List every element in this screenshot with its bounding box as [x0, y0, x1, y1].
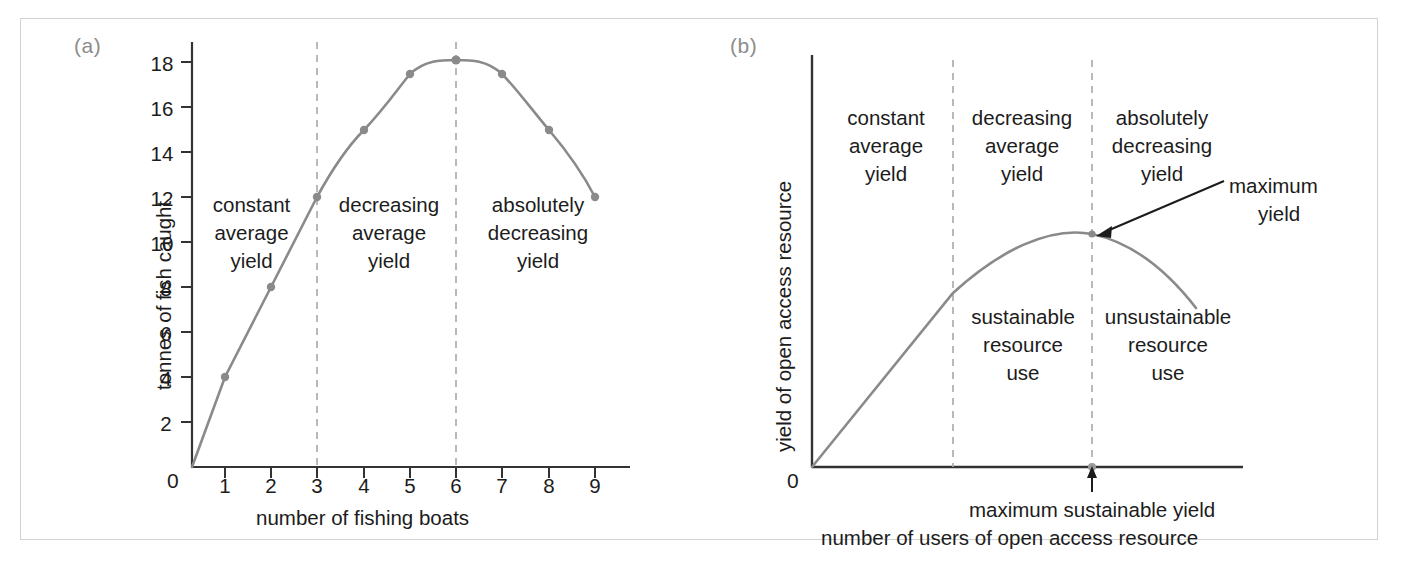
panel-b-zone-unsustainable-line2: resource: [1128, 333, 1208, 356]
panel-a-zone-constant-line3: yield: [230, 249, 272, 272]
panel-a-zone-absolutely: absolutely decreasing yield: [476, 191, 600, 275]
panel-a-ytick-6: 6: [150, 322, 182, 346]
panel-a-origin-label: 0: [167, 469, 179, 493]
panel-a-zone-decreasing-line2: average: [352, 221, 426, 244]
panel-a-zone-decreasing-line1: decreasing: [339, 193, 439, 216]
panel-a-ytick-14: 14: [142, 142, 182, 166]
panel-b-zone-unsustainable-line3: use: [1151, 361, 1184, 384]
panel-b-y-axis-title: yield of open access resource: [772, 181, 796, 452]
panel-a-zone-absolutely-line2: decreasing: [488, 221, 588, 244]
panel-b-tag: (b): [730, 34, 757, 58]
panel-b-maximum-yield-line2: yield: [1229, 200, 1300, 228]
panel-b-zone-absolutely-line3: yield: [1141, 162, 1183, 185]
panel-b-zone-absolutely: absolutely decreasing yield: [1098, 104, 1226, 188]
panel-b-zone-unsustainable-line1: unsustainable: [1105, 305, 1232, 328]
panel-a-xtick-2: 2: [257, 474, 285, 498]
panel-a-xtick-7: 7: [488, 474, 516, 498]
panel-b-zone-decreasing-line1: decreasing: [972, 106, 1072, 129]
panel-a-xtick-8: 8: [535, 474, 563, 498]
panel-a-xtick-5: 5: [396, 474, 424, 498]
panel-b-zone-decreasing-line2: average: [985, 134, 1059, 157]
panel-b-zone-decreasing-line3: yield: [1001, 162, 1043, 185]
panel-a-xtick-6: 6: [442, 474, 470, 498]
panel-b-zone-sustainable: sustainable resource use: [962, 303, 1084, 387]
panel-a-x-axis-title: number of fishing boats: [256, 506, 469, 530]
panel-b-origin-label: 0: [787, 469, 799, 493]
panel-a-ytick-8: 8: [150, 277, 182, 301]
panel-b-zone-decreasing: decreasing average yield: [962, 104, 1082, 188]
figure-root: (a) tonnes of fish caught 0 2 4 6 8 10 1…: [0, 0, 1403, 582]
panel-b-maximum-yield-line1: maximum: [1229, 174, 1318, 197]
panel-a-zone-absolutely-line1: absolutely: [492, 193, 584, 216]
panel-a-ytick-12: 12: [142, 187, 182, 211]
panel-a-ytick-4: 4: [150, 367, 182, 391]
panel-b-zone-unsustainable: unsustainable resource use: [1098, 303, 1238, 387]
panel-a-zone-absolutely-line3: yield: [517, 249, 559, 272]
panel-b-zone-absolutely-line1: absolutely: [1116, 106, 1208, 129]
panel-a-xtick-4: 4: [350, 474, 378, 498]
panel-a-ytick-2: 2: [150, 412, 182, 436]
panel-a-xtick-3: 3: [303, 474, 331, 498]
panel-a-zone-decreasing: decreasing average yield: [330, 191, 448, 275]
panel-b-zone-absolutely-line2: decreasing: [1112, 134, 1212, 157]
panel-a-ytick-10: 10: [142, 232, 182, 256]
panel-b-zone-sustainable-line2: resource: [983, 333, 1063, 356]
panel-a-tag: (a): [74, 34, 101, 58]
panel-b-peak-label: maximum sustainable yield: [969, 498, 1215, 522]
panel-a-zone-decreasing-line3: yield: [368, 249, 410, 272]
panel-b-x-axis-title: number of users of open access resource: [821, 526, 1198, 550]
panel-a-ytick-16: 16: [142, 97, 182, 121]
panel-b-zone-sustainable-line1: sustainable: [971, 305, 1075, 328]
figure-frame: [20, 18, 1378, 540]
panel-a-zone-constant-line1: constant: [213, 193, 291, 216]
panel-a-ytick-18: 18: [142, 52, 182, 76]
panel-b-zone-constant-line1: constant: [847, 106, 925, 129]
panel-a-xtick-1: 1: [211, 474, 239, 498]
panel-b-zone-constant-line2: average: [849, 134, 923, 157]
panel-b-zone-sustainable-line3: use: [1006, 361, 1039, 384]
panel-b-maximum-yield-annotation: maximum yield: [1229, 172, 1349, 228]
panel-b-zone-constant-line3: yield: [865, 162, 907, 185]
panel-a-zone-constant-line2: average: [214, 221, 288, 244]
panel-b-zone-constant: constant average yield: [831, 104, 941, 188]
panel-a-zone-constant: constant average yield: [199, 191, 304, 275]
panel-a-xtick-9: 9: [581, 474, 609, 498]
